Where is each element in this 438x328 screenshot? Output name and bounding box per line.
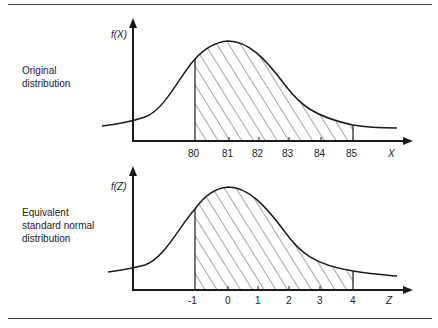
x-axis-label: Z bbox=[385, 295, 393, 306]
y-axis-label: f(Z) bbox=[111, 181, 127, 192]
tick-label: 85 bbox=[346, 148, 358, 159]
y-axis-arrow-icon bbox=[129, 18, 137, 28]
y-axis-arrow-icon bbox=[129, 166, 137, 176]
tick-label: 82 bbox=[252, 148, 264, 159]
x-axis-arrow-icon bbox=[403, 137, 413, 145]
shaded-area bbox=[190, 30, 360, 145]
tick-label: -1 bbox=[188, 295, 197, 306]
standard-normal-chart: f(Z) Z -1 0 1 2 3 4 bbox=[108, 166, 413, 306]
tick-label: 83 bbox=[282, 148, 294, 159]
tick-label: 0 bbox=[225, 295, 231, 306]
tick-label: 3 bbox=[317, 295, 323, 306]
y-axis-label: f(X) bbox=[111, 29, 127, 40]
tick-label: 81 bbox=[222, 148, 234, 159]
x-axis-arrow-icon bbox=[403, 286, 413, 294]
shaded-area bbox=[190, 180, 360, 295]
tick-label: 4 bbox=[350, 295, 356, 306]
x-axis-label: X bbox=[387, 148, 395, 159]
tick-label: 84 bbox=[314, 148, 326, 159]
tick-label: 80 bbox=[188, 148, 200, 159]
distribution-diagram: f(X) X 80 81 82 83 84 85 f(Z) Z -1 0 1 2… bbox=[0, 0, 438, 328]
tick-label: 1 bbox=[255, 295, 261, 306]
original-distribution-chart: f(X) X 80 81 82 83 84 85 bbox=[102, 18, 413, 159]
tick-label: 2 bbox=[286, 295, 292, 306]
